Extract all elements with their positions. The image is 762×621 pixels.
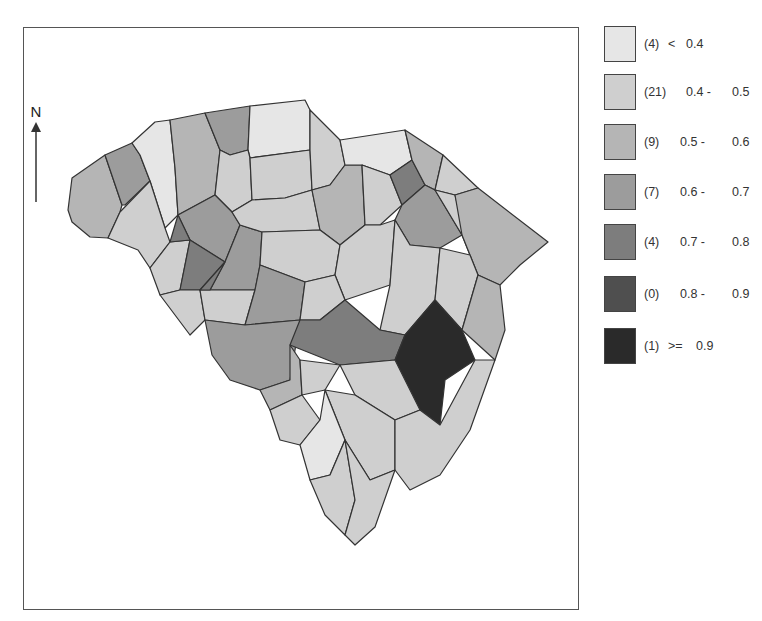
legend-item: (4) 0.7 - 0.8 bbox=[604, 224, 762, 260]
legend-range-low: 0.7 - bbox=[680, 235, 705, 249]
legend-operator: < bbox=[668, 37, 675, 51]
legend-range-high: 0.6 bbox=[732, 135, 749, 149]
legend-swatch bbox=[604, 74, 636, 110]
legend-swatch bbox=[604, 26, 636, 62]
legend-count: (4) bbox=[644, 235, 659, 249]
legend-count: (9) bbox=[644, 135, 659, 149]
county-bamberg[interactable] bbox=[300, 360, 340, 395]
legend-count: (0) bbox=[644, 287, 659, 301]
legend-item: (9) 0.5 - 0.6 bbox=[604, 124, 762, 160]
county-aiken[interactable] bbox=[205, 320, 300, 390]
legend-range-high: 0.9 bbox=[732, 287, 749, 301]
legend-swatch bbox=[604, 276, 636, 312]
north-indicator: N bbox=[26, 104, 46, 202]
legend-range-high: 0.8 bbox=[732, 235, 749, 249]
legend-count: (21) bbox=[644, 85, 666, 99]
legend-range-low: 0.8 - bbox=[680, 287, 705, 301]
north-label: N bbox=[26, 104, 46, 120]
legend-swatch bbox=[604, 124, 636, 160]
legend-swatch bbox=[604, 224, 636, 260]
legend-range-high: 0.7 bbox=[732, 185, 749, 199]
legend-swatch bbox=[604, 174, 636, 210]
county-mccormick[interactable] bbox=[160, 290, 205, 335]
legend-operator: >= bbox=[668, 339, 683, 353]
legend-range-low: 0.9 bbox=[696, 339, 713, 353]
legend-item: (4) < 0.4 bbox=[604, 26, 762, 62]
legend-range-low: 0.4 bbox=[686, 37, 703, 51]
legend-swatch bbox=[604, 328, 636, 364]
county-york[interactable] bbox=[248, 100, 310, 158]
legend-range-low: 0.5 - bbox=[680, 135, 705, 149]
legend-range-low: 0.6 - bbox=[680, 185, 705, 199]
legend-range-high: 0.5 bbox=[732, 85, 749, 99]
legend-item: (7) 0.6 - 0.7 bbox=[604, 174, 762, 210]
north-arrow-icon bbox=[30, 122, 42, 202]
legend-count: (1) bbox=[644, 339, 659, 353]
legend-count: (7) bbox=[644, 185, 659, 199]
legend-range-low: 0.4 - bbox=[686, 85, 711, 99]
legend-item: (21) 0.4 - 0.5 bbox=[604, 74, 762, 110]
county-dillon[interactable] bbox=[435, 155, 478, 195]
legend-item: (1) >= 0.9 bbox=[604, 328, 762, 364]
legend-count: (4) bbox=[644, 37, 659, 51]
legend-item: (0) 0.8 - 0.9 bbox=[604, 276, 762, 312]
